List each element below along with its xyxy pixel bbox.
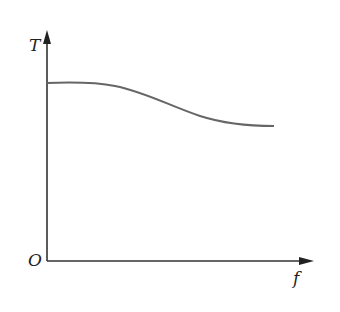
origin-label: O bbox=[28, 250, 42, 270]
x-axis-arrow-icon bbox=[299, 257, 314, 265]
diagram-canvas bbox=[0, 0, 340, 312]
y-axis-label: T bbox=[29, 35, 40, 55]
y-axis-arrow-icon bbox=[43, 30, 51, 44]
x-axis-label: f bbox=[293, 268, 299, 288]
curve-t-of-f bbox=[47, 82, 274, 126]
